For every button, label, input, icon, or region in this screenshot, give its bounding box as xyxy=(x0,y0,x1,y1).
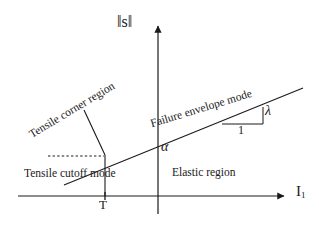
x-axis-label: I1 xyxy=(296,184,306,200)
tensile-cutoff-point-label: T xyxy=(99,198,107,212)
corner-region-boundary-line xyxy=(84,110,105,155)
x-axis-label-subscript: 1 xyxy=(301,190,306,200)
y-axis-label: ‖s‖ xyxy=(117,14,132,31)
slope-run-label: 1 xyxy=(238,124,244,137)
alpha-intercept-label: α xyxy=(161,140,168,155)
failure-envelope-diagram: ‖s‖ I1 Tensile corner region Failure env… xyxy=(0,0,319,232)
lambda-slope-label: λ xyxy=(265,104,271,119)
elastic-region-label: Elastic region xyxy=(172,166,236,178)
tensile-cutoff-mode-label: Tensile cutoff mode xyxy=(24,167,106,179)
